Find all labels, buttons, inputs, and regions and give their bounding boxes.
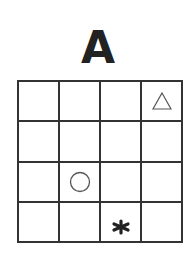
cell-r1-c3 <box>100 81 141 121</box>
star-icon <box>111 219 131 235</box>
cell-r2-c2 <box>59 121 100 161</box>
cell-r3-c3 <box>100 162 141 202</box>
cell-r2-c1 <box>18 121 59 161</box>
cell-r2-c4 <box>141 121 182 161</box>
cell-r3-c1 <box>18 162 59 202</box>
cell-r4-c2 <box>59 202 100 242</box>
cell-r3-c2 <box>59 162 100 202</box>
grid <box>17 80 183 243</box>
triangle-icon <box>152 92 172 110</box>
cell-r1-c4 <box>141 81 182 121</box>
cell-r4-c4 <box>141 202 182 242</box>
cell-r4-c3 <box>100 202 141 242</box>
puzzle-title: A <box>0 26 196 70</box>
cell-r4-c1 <box>18 202 59 242</box>
cell-r1-c2 <box>59 81 100 121</box>
cell-r3-c4 <box>141 162 182 202</box>
cell-r2-c3 <box>100 121 141 161</box>
cell-r1-c1 <box>18 81 59 121</box>
circle-icon <box>69 171 91 193</box>
